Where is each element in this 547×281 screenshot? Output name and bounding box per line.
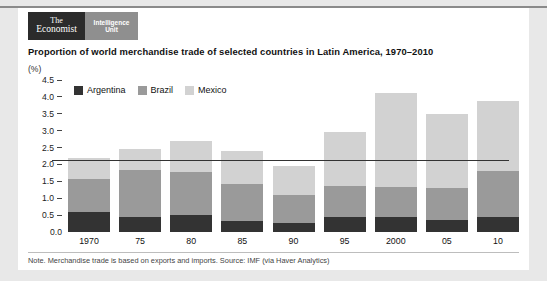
bar-segment-argentina	[119, 217, 161, 232]
y-axis-tick-mark	[57, 113, 62, 114]
y-axis-tick-label: 0.5	[42, 210, 54, 220]
bar-segment-brazil	[119, 170, 161, 217]
y-axis-tick-mark	[57, 181, 62, 182]
bar-column[interactable]	[119, 80, 161, 232]
bar-column[interactable]	[426, 80, 468, 232]
x-axis-label: 10	[477, 236, 519, 246]
bar-segment-argentina	[221, 221, 263, 232]
bar-column[interactable]	[375, 80, 417, 232]
y-axis-tick: 4.0	[42, 92, 62, 102]
y-axis-tick-mark	[57, 215, 62, 216]
y-axis-tick: 2.5	[42, 143, 62, 153]
y-axis-tick-label: 3.5	[42, 109, 54, 119]
bar-column[interactable]	[221, 80, 263, 232]
y-axis-tick-label: 4.5	[42, 75, 54, 85]
y-axis-tick: 1.5	[42, 176, 62, 186]
y-axis-tick-mark	[57, 198, 62, 199]
bar-segment-mexico	[68, 158, 110, 179]
y-axis: 0.00.51.01.52.02.53.03.54.04.5	[28, 80, 62, 232]
bar-segment-argentina	[68, 212, 110, 232]
y-axis-tick: 1.0	[42, 193, 62, 203]
bar-segment-brazil	[273, 195, 315, 223]
y-axis-tick: 3.0	[42, 126, 62, 136]
y-axis-tick-mark	[57, 130, 62, 131]
y-axis-tick-mark	[57, 147, 62, 148]
x-axis-label: 05	[426, 236, 468, 246]
bar-column[interactable]	[273, 80, 315, 232]
bar-segment-argentina	[375, 217, 417, 232]
bar-segment-brazil	[477, 171, 519, 217]
x-axis-label: 85	[221, 236, 263, 246]
bar-column[interactable]	[324, 80, 366, 232]
bars-area	[68, 80, 519, 232]
y-axis-tick: 4.5	[42, 75, 62, 85]
x-axis-label: 95	[324, 236, 366, 246]
x-axis-label: 2000	[375, 236, 417, 246]
y-axis-tick-label: 3.0	[42, 126, 54, 136]
y-axis-tick-label: 1.0	[42, 193, 54, 203]
chart-footnote: Note. Merchandise trade is based on expo…	[28, 256, 330, 265]
chart-card: The Economist Intelligence Unit Proporti…	[18, 8, 529, 270]
y-axis-tick-mark	[57, 164, 62, 165]
bar-segment-brazil	[221, 184, 263, 220]
chart-unit-label: (%)	[28, 64, 41, 74]
y-axis-tick: 3.5	[42, 109, 62, 119]
plot-area: 0.00.51.01.52.02.53.03.54.04.5	[28, 80, 519, 232]
bar-segment-argentina	[477, 217, 519, 232]
bar-segment-mexico	[273, 166, 315, 195]
y-axis-tick-label: 0.0	[50, 227, 62, 237]
eiu-logo-line1: Intelligence	[94, 19, 130, 26]
bar-column[interactable]	[170, 80, 212, 232]
x-axis-line	[52, 160, 509, 161]
x-axis-label: 1970	[68, 236, 110, 246]
bar-segment-brazil	[68, 179, 110, 212]
y-axis-tick-label: 2.5	[42, 143, 54, 153]
bar-column[interactable]	[68, 80, 110, 232]
bar-segment-brazil	[426, 188, 468, 219]
y-axis-tick-mark	[57, 80, 62, 81]
y-axis-tick-label: 1.5	[42, 176, 54, 186]
x-axis-label: 75	[119, 236, 161, 246]
eiu-logo: Intelligence Unit	[85, 12, 138, 40]
x-axis-label: 80	[170, 236, 212, 246]
y-axis-tick-mark	[57, 96, 62, 97]
y-axis-tick: 0.0	[50, 227, 62, 237]
bar-segment-argentina	[170, 215, 212, 232]
bar-segment-argentina	[426, 220, 468, 232]
chart-title: Proportion of world merchandise trade of…	[28, 46, 433, 57]
y-axis-tick-label: 4.0	[42, 92, 54, 102]
economist-logo-line2: Economist	[36, 25, 77, 35]
brand-lockup: The Economist Intelligence Unit	[28, 12, 138, 40]
bar-segment-brazil	[170, 172, 212, 215]
bar-segment-brazil	[375, 187, 417, 217]
eiu-logo-line2: Unit	[105, 26, 118, 33]
bar-segment-mexico	[375, 93, 417, 188]
footnote-divider	[28, 252, 519, 253]
bar-column[interactable]	[477, 80, 519, 232]
bar-segment-mexico	[221, 151, 263, 184]
bar-segment-mexico	[426, 114, 468, 188]
bar-segment-brazil	[324, 186, 366, 218]
bar-segment-argentina	[273, 223, 315, 232]
bar-segment-mexico	[170, 141, 212, 172]
bar-segment-argentina	[324, 217, 366, 232]
x-axis-label: 90	[273, 236, 315, 246]
economist-logo: The Economist	[28, 12, 85, 40]
y-axis-tick: 0.5	[42, 210, 62, 220]
x-axis-labels: 1970758085909520000510	[68, 236, 519, 246]
page-background: The Economist Intelligence Unit Proporti…	[0, 0, 547, 281]
